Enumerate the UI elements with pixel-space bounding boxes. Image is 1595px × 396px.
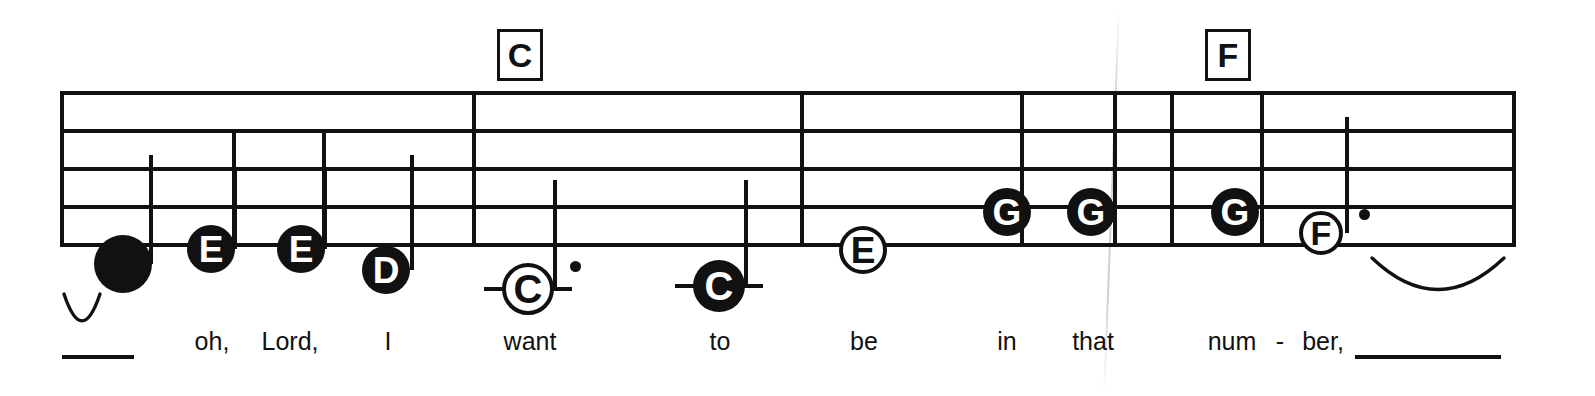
note-stem-n5 bbox=[553, 180, 557, 289]
lyric-syllable-8: num bbox=[1208, 327, 1257, 356]
note-c-n6: C bbox=[693, 260, 745, 312]
division-rule-4 bbox=[1113, 91, 1117, 247]
note-stem-n1 bbox=[149, 155, 153, 264]
staff-line-1 bbox=[60, 91, 1512, 95]
note-stem-n3 bbox=[323, 167, 327, 249]
lyric-syllable-1: Lord, bbox=[262, 327, 319, 356]
note-head-n1 bbox=[94, 235, 152, 293]
barline-2 bbox=[800, 91, 804, 247]
chord-symbol-f-1: F bbox=[1205, 29, 1251, 81]
note-d-n4: D bbox=[362, 246, 410, 294]
slur-end bbox=[1370, 256, 1506, 298]
note-stem-n4 bbox=[410, 155, 414, 270]
note-e-n3: E bbox=[277, 225, 325, 273]
staff-line-3 bbox=[60, 167, 1512, 171]
lyric-syllable-2: I bbox=[385, 327, 392, 356]
staff-end-barline bbox=[1512, 91, 1516, 247]
note-g-n10: G bbox=[1211, 188, 1259, 236]
note-g-n9: G bbox=[1067, 188, 1115, 236]
division-rule-5 bbox=[1260, 91, 1264, 247]
ledger-tick-left-n6 bbox=[675, 284, 695, 288]
staff-start-barline bbox=[60, 91, 64, 247]
augmentation-dot-n5 bbox=[570, 261, 581, 272]
music-sheet-page: CF EEDCCEGGGF oh,Lord,Iwanttobeinthatnum… bbox=[0, 0, 1595, 396]
lyric-syllable-10: ber, bbox=[1302, 327, 1344, 356]
lyric-syllable-7: that bbox=[1072, 327, 1114, 356]
note-e-n7: E bbox=[839, 226, 887, 274]
note-c-n5: C bbox=[502, 263, 554, 315]
note-g-n8: G bbox=[983, 188, 1031, 236]
lyric-syllable-9: - bbox=[1276, 327, 1284, 356]
ledger-tick-right-n5 bbox=[552, 287, 572, 291]
barline-3 bbox=[1170, 91, 1174, 247]
note-f-n11: F bbox=[1299, 211, 1343, 255]
note-stem-n6 bbox=[744, 180, 748, 286]
chord-symbol-c-0: C bbox=[497, 29, 543, 81]
staff-line-4 bbox=[60, 205, 1512, 209]
note-stem-n2 bbox=[233, 167, 237, 249]
augmentation-dot-n11 bbox=[1359, 209, 1370, 220]
lyric-extender-start bbox=[62, 355, 134, 359]
lyric-syllable-3: want bbox=[504, 327, 557, 356]
barline-1 bbox=[472, 91, 476, 247]
lyric-syllable-0: oh, bbox=[195, 327, 230, 356]
slur-start bbox=[62, 292, 102, 328]
lyric-extender-end bbox=[1355, 355, 1501, 359]
ledger-tick-left-n5 bbox=[484, 287, 504, 291]
note-e-n2: E bbox=[187, 225, 235, 273]
lyric-syllable-5: be bbox=[850, 327, 878, 356]
staff-line-2 bbox=[60, 129, 1512, 133]
ledger-tick-right-n6 bbox=[743, 284, 763, 288]
lyric-syllable-6: in bbox=[997, 327, 1016, 356]
note-stem-n11 bbox=[1345, 117, 1349, 233]
lyric-syllable-4: to bbox=[710, 327, 731, 356]
